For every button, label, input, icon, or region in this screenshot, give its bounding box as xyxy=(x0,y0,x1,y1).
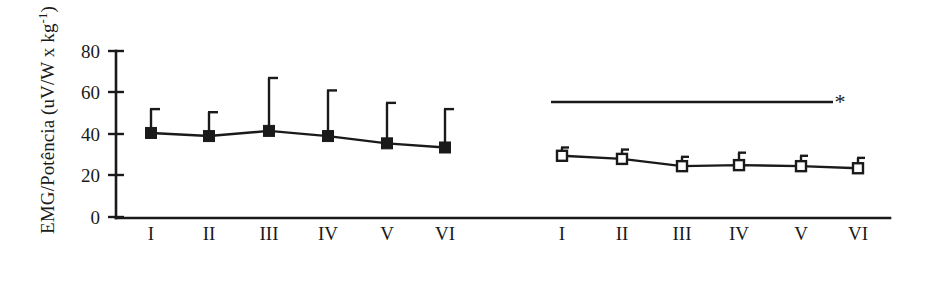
markers-left xyxy=(146,125,451,153)
error-bars-left xyxy=(150,78,454,148)
series-group-left xyxy=(146,78,455,153)
x-axis-label-vi: VI xyxy=(435,223,455,244)
y-axis-tick-labels: 80 60 40 20 0 xyxy=(81,41,100,228)
x-axis-label-iv: IV xyxy=(318,223,338,244)
data-point-marker xyxy=(264,125,275,136)
data-point-marker xyxy=(440,142,451,153)
x-axis-label-iv: IV xyxy=(729,223,749,244)
x-axis-label-iii: III xyxy=(673,223,692,244)
series-group-right xyxy=(557,147,865,173)
figure-panel: EMG/Potência (uV/W x kg-1) 80 60 40 20 0 xyxy=(0,0,938,281)
data-point-marker xyxy=(853,163,863,173)
data-point-marker xyxy=(617,154,627,164)
x-axis-label-i: I xyxy=(148,223,154,244)
data-point-marker xyxy=(734,160,744,170)
y-tick-label-40: 40 xyxy=(81,124,100,145)
x-axis-label-vi: VI xyxy=(848,223,868,244)
y-tick-label-60: 60 xyxy=(81,82,100,103)
chart-canvas: 80 60 40 20 0 * IIIIIIIVVVI IIIIIIIVVV xyxy=(0,0,938,281)
x-axis-labels-left: IIIIIIIVVVI xyxy=(148,223,455,244)
x-axis-label-v: V xyxy=(794,223,808,244)
x-axis-label-ii: II xyxy=(203,223,216,244)
data-point-marker xyxy=(204,131,215,142)
data-point-marker xyxy=(382,138,393,149)
data-point-marker xyxy=(677,161,687,171)
y-tick-label-0: 0 xyxy=(91,207,101,228)
significance-star-icon: * xyxy=(835,89,846,114)
data-point-marker xyxy=(796,161,806,171)
data-point-marker xyxy=(557,151,567,161)
series-line-right xyxy=(562,156,858,168)
data-point-marker xyxy=(323,131,334,142)
x-axis-label-ii: II xyxy=(616,223,629,244)
x-axis-label-v: V xyxy=(380,223,394,244)
data-point-marker xyxy=(146,127,157,138)
y-tick-label-20: 20 xyxy=(81,165,100,186)
significance-annotation: * xyxy=(551,89,846,114)
markers-right xyxy=(557,151,863,173)
x-axis-labels-right: IIIIIIIVVVI xyxy=(559,223,868,244)
series-line-left xyxy=(151,131,445,148)
x-axis-label-iii: III xyxy=(260,223,279,244)
x-axis-label-i: I xyxy=(559,223,565,244)
y-tick-label-80: 80 xyxy=(81,41,100,62)
